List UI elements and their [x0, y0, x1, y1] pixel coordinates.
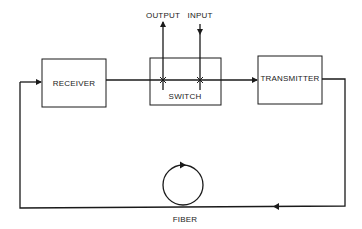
bottom-arrow-icon	[273, 203, 279, 210]
fiber-label: FIBER	[173, 215, 198, 224]
receiver-block: RECEIVER	[42, 59, 106, 107]
ring-network-diagram: RECEIVER SWITCH TRANSMITTER OUTPUT INPUT	[0, 0, 362, 229]
receiver-label: RECEIVER	[53, 79, 96, 88]
input-label: INPUT	[188, 11, 213, 20]
switch-block: SWITCH	[150, 58, 221, 105]
transmitter-label: TRANSMITTER	[260, 74, 319, 83]
output-label: OUTPUT	[146, 11, 180, 20]
fiber-coil-icon: FIBER	[163, 162, 203, 225]
switch-label: SWITCH	[169, 92, 202, 101]
transmitter-block: TRANSMITTER	[258, 56, 322, 104]
